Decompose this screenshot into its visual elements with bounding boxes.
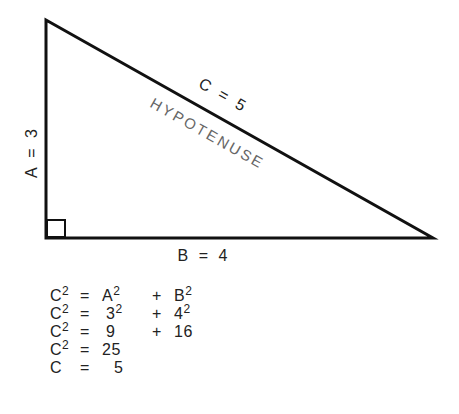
eq-lhs: C2 — [50, 341, 80, 359]
right-angle-marker — [47, 220, 65, 237]
eq-term1: 5 — [102, 359, 152, 377]
eq-sign: = — [80, 359, 102, 377]
equation-row: C2 = 32 + 42 — [50, 305, 214, 323]
eq-term1: A2 — [102, 287, 152, 305]
eq-term2: 42 — [174, 305, 214, 323]
eq-sign: = — [80, 305, 102, 323]
eq-sign: = — [80, 287, 102, 305]
eq-op: + — [152, 305, 174, 323]
eq-lhs: C — [50, 359, 80, 377]
side-b-label: B = 4 — [178, 247, 231, 264]
equation-row: C2 = 25 — [50, 341, 214, 359]
eq-term1: 25 — [102, 341, 152, 359]
eq-sign: = — [80, 323, 102, 341]
pythagorean-equations: C2 = A2 + B2 C2 = 32 + 42 C2 = 9 + 16 C2… — [50, 287, 214, 377]
eq-op: + — [152, 287, 174, 305]
triangle-shape — [46, 20, 433, 238]
eq-term2: B2 — [174, 287, 214, 305]
eq-term1: 32 — [102, 305, 152, 323]
eq-op: + — [152, 323, 174, 341]
eq-term1: 9 — [102, 323, 152, 341]
equation-row: C2 = 9 + 16 — [50, 323, 214, 341]
eq-sign: = — [80, 341, 102, 359]
eq-term2: 16 — [174, 323, 214, 341]
side-a-label: A = 3 — [23, 126, 40, 178]
equation-row: C = 5 — [50, 359, 214, 377]
